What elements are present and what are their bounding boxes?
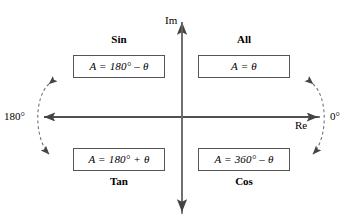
formula-box-sin: A = 180° – θ [73,55,165,78]
diagram-canvas: Im Re 180° 0° Sin All Tan Cos A = 180° –… [0,0,353,224]
right-rotation-arc [313,84,324,154]
quadrant-label-cos: Cos [198,176,290,187]
real-axis-label: Re [295,120,307,131]
formula-box-cos: A = 360° – θ [198,148,290,171]
imaginary-axis-label: Im [165,15,177,26]
left-rotation-arc [38,84,49,154]
quadrant-label-sin: Sin [73,34,165,45]
quadrant-label-tan: Tan [73,176,165,187]
formula-text-tan: A = 180° + θ [88,154,149,165]
formula-box-all: A = θ [198,55,290,78]
formula-text-all: A = θ [231,61,257,72]
angle-label-180: 180° [4,111,25,122]
formula-text-cos: A = 360° – θ [214,154,273,165]
axes-and-arcs [0,0,353,224]
formula-box-tan: A = 180° + θ [73,148,165,171]
quadrant-label-all: All [198,34,290,45]
angle-label-0: 0° [330,111,340,122]
formula-text-sin: A = 180° – θ [89,61,148,72]
